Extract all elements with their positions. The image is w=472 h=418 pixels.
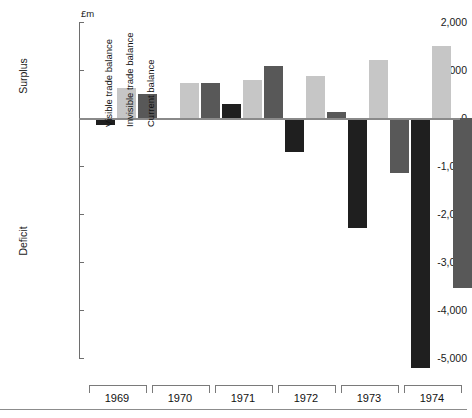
bar-visible-trade-balance[interactable] — [411, 118, 430, 368]
bar-visible-trade-balance[interactable] — [348, 118, 367, 228]
legend-label-invisible-trade-balance: Invisible trade balance — [124, 32, 135, 127]
surplus-axis-label: Surplus — [17, 31, 29, 121]
y-tick — [79, 358, 84, 359]
x-tick-label-1971: 1971 — [215, 392, 271, 404]
bar-current-balance[interactable] — [264, 66, 283, 118]
y-axis-unit-label: £m — [81, 8, 94, 19]
deficit-axis-label: Deficit — [17, 196, 29, 286]
bar-invisible-trade-balance[interactable] — [432, 46, 451, 118]
x-tick-label-1973: 1973 — [341, 392, 397, 404]
x-tick-label-1972: 1972 — [278, 392, 334, 404]
x-tick-label-1974: 1974 — [404, 392, 460, 404]
figure-bottom-rule — [0, 409, 467, 410]
bar-invisible-trade-balance[interactable] — [369, 60, 388, 118]
legend-label-current-balance: Current balance — [145, 59, 156, 127]
bar-visible-trade-balance[interactable] — [285, 118, 304, 152]
bar-current-balance[interactable] — [390, 118, 409, 173]
bar-invisible-trade-balance[interactable] — [180, 83, 199, 118]
bar-invisible-trade-balance[interactable] — [243, 80, 262, 118]
bar-current-balance[interactable] — [453, 118, 472, 288]
bar-visible-trade-balance[interactable] — [222, 104, 241, 118]
x-tick-label-1970: 1970 — [152, 392, 208, 404]
legend-label-visible-trade-balance: Visible trade balance — [103, 39, 114, 127]
bar-current-balance[interactable] — [201, 83, 220, 118]
zero-baseline — [79, 118, 460, 120]
plot-area — [79, 22, 460, 358]
x-tick-label-1969: 1969 — [89, 392, 145, 404]
bar-invisible-trade-balance[interactable] — [306, 76, 325, 118]
